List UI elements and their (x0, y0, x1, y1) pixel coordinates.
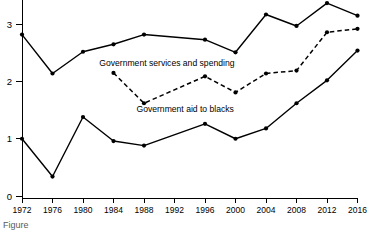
data-point (81, 115, 85, 119)
data-point (203, 74, 207, 78)
x-tick-label: 1976 (43, 205, 62, 215)
data-point (50, 71, 54, 75)
y-tick-label: 0 (7, 191, 12, 202)
data-point (355, 48, 359, 52)
x-tick-label: 1988 (135, 205, 154, 215)
plot-area: 0 1 2 3 1972 1976 1980 1984 1988 19 (0, 0, 367, 230)
caption-fragment: Figure (3, 221, 63, 230)
x-tick-label: 1984 (104, 205, 123, 215)
y-axis-ticks (16, 24, 22, 196)
data-point (233, 50, 237, 54)
data-point (264, 12, 268, 16)
data-point (294, 24, 298, 28)
services-and-spending-label: Government services and spending (99, 58, 234, 68)
data-point (81, 50, 85, 54)
data-point (50, 174, 54, 178)
x-axis-tick-labels: 1972 1976 1980 1984 1988 1992 1996 2000 … (13, 205, 367, 215)
data-point (203, 122, 207, 126)
data-point (20, 137, 24, 141)
x-tick-label: 2004 (257, 205, 276, 215)
data-point (355, 27, 359, 31)
y-tick-label: 2 (7, 76, 12, 87)
y-axis-tick-labels: 0 1 2 3 (7, 19, 12, 202)
data-point (325, 78, 329, 82)
data-point (203, 38, 207, 42)
data-point (264, 126, 268, 130)
data-point (142, 144, 146, 148)
data-point (142, 32, 146, 36)
y-tick-label: 1 (7, 133, 12, 144)
x-tick-label: 2000 (226, 205, 245, 215)
x-axis-ticks (22, 198, 358, 203)
y-tick-label: 3 (7, 19, 12, 30)
data-point (294, 101, 298, 105)
x-tick-label: 1992 (165, 205, 184, 215)
series-annotations: Government services and spendingGovernme… (99, 58, 234, 114)
x-tick-label: 2012 (318, 205, 337, 215)
data-point (325, 30, 329, 34)
x-tick-label: 1996 (196, 205, 215, 215)
data-point (355, 14, 359, 18)
data-point (20, 32, 24, 36)
aid-to-blacks-label: Government aid to blacks (136, 104, 233, 114)
data-point (111, 42, 115, 46)
data-point (233, 90, 237, 94)
data-point (264, 71, 268, 75)
x-tick-label: 2008 (287, 205, 306, 215)
data-point (111, 71, 115, 75)
data-series-layer (20, 1, 360, 179)
x-tick-label: 2016 (348, 205, 367, 215)
x-tick-label: 1980 (74, 205, 93, 215)
x-tick-label: 1972 (13, 205, 32, 215)
line-chart: 0 1 2 3 1972 1976 1980 1984 1988 19 (0, 0, 367, 230)
data-point (325, 1, 329, 5)
data-point (111, 139, 115, 143)
data-point (294, 69, 298, 73)
data-point (233, 137, 237, 141)
